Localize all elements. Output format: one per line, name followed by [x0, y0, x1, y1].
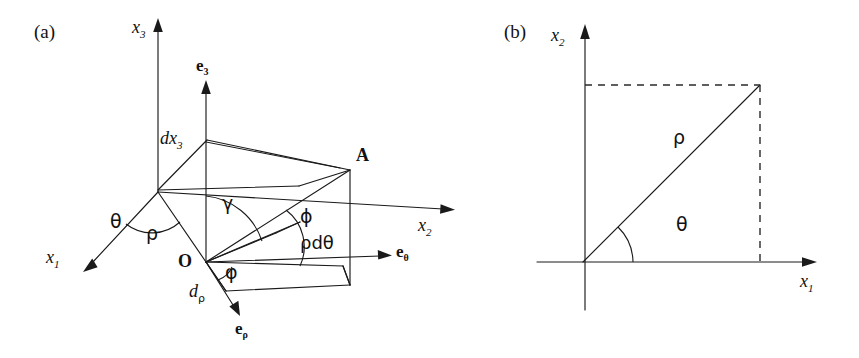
panel-b-axis-label-x2: x2 [551, 26, 565, 48]
vec-etheta-base: e [396, 242, 404, 261]
panel-a-length-label-rho: ρ [146, 224, 158, 243]
vec-e3-sub: 3 [204, 66, 209, 77]
panel-a-point-label-O: O [178, 252, 192, 270]
panel-a-inner-construction [206, 222, 300, 262]
vec-etheta-sub: θ [404, 252, 409, 263]
panel-b-segment-rho [583, 85, 760, 262]
panel-a-unit-vector-e3 [201, 80, 211, 262]
panel-a-axis-label-x3: x3 [132, 18, 146, 40]
panel-b-axis-x2 [580, 24, 590, 310]
panel-a-length-label-rho-d-theta: ρdθ [300, 234, 334, 252]
panel-b-length-label-rho: ρ [673, 128, 685, 147]
panel-b-tag: (b) [504, 22, 526, 41]
panel-a-point-label-A: A [356, 146, 369, 164]
panel-b-axis-x1-sub: 1 [808, 282, 814, 294]
panel-a-angle-label-gamma: γ [222, 194, 233, 213]
panel-a-angle-label-phi: ϕ [300, 207, 313, 226]
dx3-base: dx [160, 128, 177, 148]
panel-a-top-face [158, 140, 350, 190]
panel-b-axis-x1 [537, 257, 817, 267]
panel-b-axis-x2-base: x [551, 25, 559, 45]
axis-x2-base: x [418, 215, 426, 235]
axis-x3-base: x [132, 17, 140, 37]
panel-a-unit-vector-label-e3: e3 [196, 57, 209, 77]
drho-base: d [189, 281, 198, 301]
panel-a-axis-label-x1: x1 [46, 248, 60, 270]
panel-a-length-label-d-rho: dρ [189, 282, 205, 304]
panel-b-axis-x2-sub: 2 [559, 36, 565, 48]
diagram-canvas [0, 0, 859, 358]
axis-x1-base: x [46, 247, 54, 267]
axis-x1-sub: 1 [54, 258, 60, 270]
axis-x2-sub: 2 [426, 226, 432, 238]
panel-b-axis-x1-base: x [800, 271, 808, 291]
panel-b-angle-arc-theta [618, 227, 633, 262]
dx3-sub: 3 [177, 139, 183, 151]
panel-a-angle-label-varphi: φ [225, 263, 238, 282]
vec-erho-sub: ρ [243, 329, 248, 340]
vec-e3-base: e [196, 56, 204, 75]
axis-x3-sub: 3 [140, 28, 146, 40]
vec-erho-base: e [235, 319, 243, 338]
panel-b-axis-label-x1: x1 [800, 272, 814, 294]
panel-a-angle-arc-gamma [206, 196, 262, 241]
panel-a-leader-dx3 [206, 142, 340, 168]
panel-a-unit-vector-label-e-rho: eρ [235, 320, 248, 340]
figure-container: (a) x3 x1 x2 e3 eθ eρ O A θ γ ϕ φ ρ dx3 … [0, 0, 859, 358]
panel-a-axis-x3 [153, 18, 163, 192]
panel-a-tag: (a) [34, 22, 55, 41]
panel-a-unit-vector-label-e-theta: eθ [396, 243, 409, 263]
panel-a-length-label-dx3: dx3 [160, 129, 183, 151]
panel-a-axis-label-x2: x2 [418, 216, 432, 238]
panel-b-angle-label-theta: θ [676, 215, 688, 234]
panel-a-angle-label-theta: θ [110, 212, 122, 231]
drho-sub: ρ [198, 292, 205, 305]
